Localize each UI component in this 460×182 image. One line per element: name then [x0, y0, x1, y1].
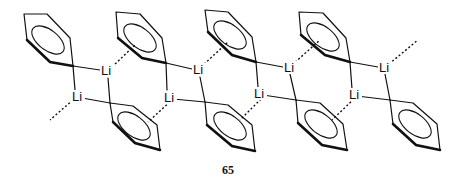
li-c-bond — [73, 66, 100, 70]
li-c-bond — [173, 99, 205, 102]
li-c-bond — [263, 95, 296, 100]
lithium-atom-label: Li — [254, 86, 264, 101]
li-c-bond — [385, 74, 390, 100]
bottom-phenyl-ring-4 — [390, 100, 440, 150]
bottom-phenyl-rings — [110, 100, 440, 151]
aromatic-circle — [209, 15, 251, 54]
lithium-atom-label: Li — [101, 63, 111, 78]
aromatic-circle — [394, 104, 436, 143]
bottom-phenyl-ring-1 — [110, 103, 160, 150]
li-c-bond — [200, 77, 205, 102]
li-c-bond — [166, 63, 167, 90]
top-phenyl-ring-1 — [24, 14, 73, 66]
li-c-bond — [108, 78, 110, 103]
li-c-bond — [166, 63, 192, 69]
li-pi-interaction — [112, 44, 136, 67]
li-c-bond — [256, 62, 283, 67]
lithium-atom-label: Li — [72, 89, 82, 104]
lithium-atom-label: Li — [379, 60, 389, 75]
phenyllithium-ladder-structure: LiLiLiLiLiLiLiLi 65 — [0, 0, 460, 182]
aromatic-circle — [27, 20, 69, 59]
li-c-bond — [73, 66, 75, 90]
lithium-atom-label: Li — [349, 87, 359, 102]
bottom-phenyl-ring-2 — [205, 102, 255, 151]
aromatic-circle — [300, 104, 342, 143]
top-phenyl-ring-4 — [299, 12, 350, 62]
aromatic-circle — [209, 106, 251, 145]
li-c-bond — [290, 74, 296, 100]
compound-number-label: 65 — [222, 163, 234, 177]
top-phenyl-ring-3 — [205, 10, 256, 62]
lithium-atom-label: Li — [284, 60, 294, 75]
li-c-bond — [350, 62, 352, 89]
lithium-atoms: LiLiLiLiLiLiLiLi — [71, 60, 392, 105]
li-pi-interaction — [389, 40, 418, 64]
top-phenyl-rings — [24, 10, 350, 66]
top-phenyl-ring-2 — [116, 12, 166, 63]
aromatic-circle — [113, 106, 155, 145]
li-c-bond — [82, 98, 110, 103]
aromatic-circle — [119, 18, 161, 57]
li-c-bond — [350, 62, 378, 67]
li-carbon-bonds — [73, 62, 390, 103]
bottom-phenyl-ring-3 — [296, 100, 347, 150]
li-c-bond — [256, 62, 258, 87]
lithium-atom-label: Li — [164, 90, 174, 105]
lithium-atom-label: Li — [193, 62, 203, 77]
li-pi-interaction — [50, 100, 73, 120]
